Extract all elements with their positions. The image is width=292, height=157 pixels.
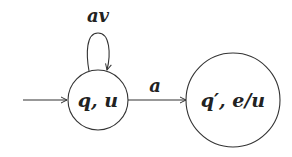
self-loop-label: av	[87, 5, 110, 26]
state-q-prime-e-u: q′, e/u	[186, 53, 280, 147]
state-q-u: q, u	[68, 70, 128, 130]
self-loop-arrow	[87, 33, 109, 71]
state-label: q′, e/u	[201, 89, 265, 111]
automaton-diagram: q, u av a q′, e/u	[0, 0, 292, 157]
state-label: q, u	[78, 89, 118, 111]
transition-label: a	[149, 75, 161, 96]
